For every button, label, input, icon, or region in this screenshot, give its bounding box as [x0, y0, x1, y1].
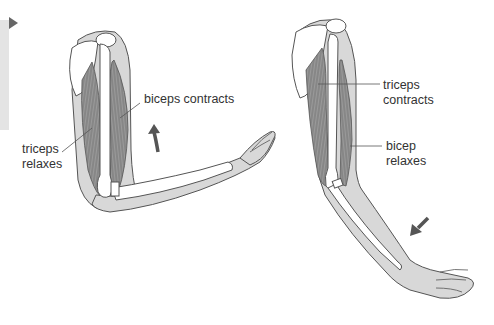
label-line: triceps: [383, 78, 434, 93]
label-line: bicep: [386, 139, 426, 154]
extended-arm: [292, 19, 474, 298]
flexed-arm: [70, 31, 276, 212]
label-line: relaxes: [386, 154, 426, 169]
label-biceps-contracts: biceps contracts: [144, 92, 234, 107]
label-line: triceps: [22, 142, 62, 157]
label-triceps-contracts: triceps contracts: [383, 78, 434, 108]
label-bicep-relaxes: bicep relaxes: [386, 139, 426, 169]
arrow-down-left-icon: [410, 218, 428, 236]
label-line: relaxes: [22, 157, 62, 172]
arrow-up-icon: [148, 124, 160, 152]
label-triceps-relaxes: triceps relaxes: [22, 142, 62, 172]
label-line: contracts: [383, 93, 434, 108]
